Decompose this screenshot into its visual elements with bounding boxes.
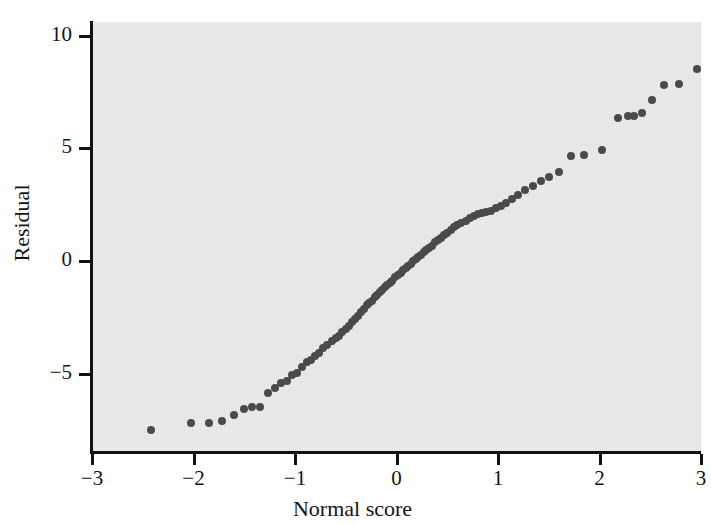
data-point [147,426,155,434]
data-point [256,403,264,411]
data-point [638,109,646,117]
data-point [555,168,563,176]
data-point [218,417,226,425]
data-point [598,146,606,154]
x-tick-label: −2 [174,468,214,489]
x-tick-mark [91,454,94,465]
data-point [567,152,575,160]
data-point [230,411,238,419]
data-point [537,177,545,185]
data-point [187,419,195,427]
y-tick-mark [79,35,90,38]
data-point [264,389,272,397]
x-tick-mark [599,454,602,465]
data-point [248,403,256,411]
y-tick-mark [79,260,90,263]
data-point [675,80,683,88]
y-axis-line [90,21,93,453]
y-tick-mark [79,373,90,376]
data-point [521,186,529,194]
data-point [614,114,622,122]
x-tick-label: −1 [275,468,315,489]
x-tick-mark [497,454,500,465]
x-tick-label: 1 [478,468,518,489]
scan-bleed-texture [92,22,701,451]
x-tick-mark [396,454,399,465]
x-tick-label: −3 [72,468,112,489]
data-point [580,151,588,159]
y-tick-label: −5 [28,362,72,383]
data-point [693,65,701,73]
data-point [545,173,553,181]
y-tick-label: 10 [28,24,72,45]
data-point [529,182,537,190]
plot-panel [92,22,701,451]
x-tick-label: 2 [580,468,620,489]
x-tick-mark [193,454,196,465]
x-axis-title: Normal score [0,496,705,522]
data-point [660,81,668,89]
x-tick-mark [294,454,297,465]
x-tick-label: 3 [681,468,711,489]
data-point [630,112,638,120]
x-tick-mark [700,454,703,465]
data-point [240,405,248,413]
data-point [205,419,213,427]
y-axis-title: Residual [9,123,35,323]
data-point [648,96,656,104]
x-tick-label: 0 [377,468,417,489]
y-tick-mark [79,147,90,150]
